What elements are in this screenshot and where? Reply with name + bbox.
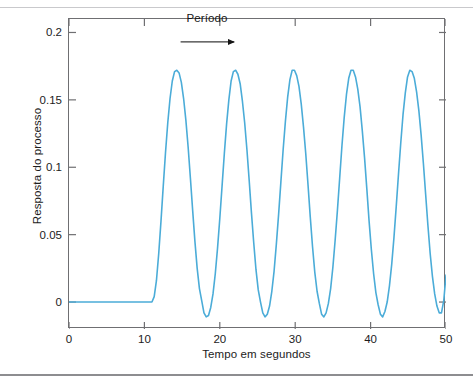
chart-figure: Resposta do processo Tempo em segundos 0… — [0, 8, 473, 372]
x-tick-label: 50 — [440, 333, 453, 345]
plot-canvas — [69, 19, 446, 329]
y-tick-label: 0.05 — [40, 229, 62, 241]
page-rule-bottom — [0, 374, 473, 376]
y-tick-label: 0.1 — [46, 161, 62, 173]
plot-area: 00.050.10.150.2 01020304050 Período — [68, 18, 445, 328]
data-series-line — [69, 70, 446, 317]
x-tick-label: 40 — [364, 333, 377, 345]
x-tick-label: 0 — [66, 333, 72, 345]
y-tick-label: 0.15 — [40, 94, 62, 106]
x-tick-label: 20 — [213, 333, 226, 345]
x-tick-label: 30 — [289, 333, 302, 345]
x-axis-label: Tempo em segundos — [68, 348, 445, 360]
x-tick-label: 10 — [138, 333, 151, 345]
y-tick-label: 0 — [56, 296, 62, 308]
y-tick-label: 0.2 — [46, 26, 62, 38]
